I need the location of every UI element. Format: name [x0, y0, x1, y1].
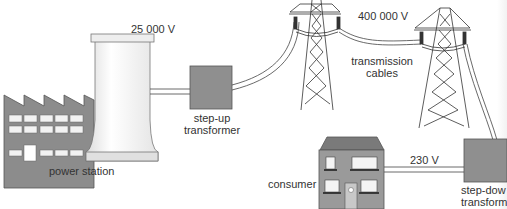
cable-stepdown-to-house — [384, 167, 464, 172]
label-step-up-line2: transformer — [183, 124, 241, 136]
transmission-tower-2 — [414, 8, 471, 128]
consumer-house — [319, 137, 384, 209]
label-step-down-line1: step-dow — [461, 184, 507, 196]
factory-door — [24, 145, 36, 161]
cable-stepup-to-tower — [232, 22, 299, 90]
label-transmission-line1: transmission — [346, 55, 418, 67]
step-down-transformer — [464, 139, 507, 182]
house-door — [345, 183, 357, 209]
cable-station-to-stepup — [150, 89, 191, 94]
electricity-transmission-diagram — [0, 0, 507, 209]
label-transmission-cables: transmission cables — [346, 55, 418, 79]
label-consumer-voltage: 230 V — [410, 154, 439, 166]
cooling-tower — [86, 34, 158, 161]
label-transmission-line2: cables — [346, 67, 418, 79]
label-step-up-line1: step-up — [183, 112, 241, 124]
label-consumer: consumer — [268, 178, 316, 190]
label-power-station: power station — [49, 165, 114, 177]
step-up-transformer — [190, 66, 232, 109]
label-step-down-line2: transform — [461, 196, 507, 208]
label-step-up-transformer: step-up transformer — [183, 112, 241, 136]
label-step-down-transformer: step-dow transform — [461, 184, 507, 208]
label-transmission-voltage: 400 000 V — [358, 10, 408, 22]
transmission-tower-1 — [289, 0, 341, 110]
transmission-cables — [339, 28, 421, 45]
label-step-up-voltage: 25 000 V — [131, 23, 175, 35]
cable-tower-to-stepdown — [463, 44, 497, 140]
